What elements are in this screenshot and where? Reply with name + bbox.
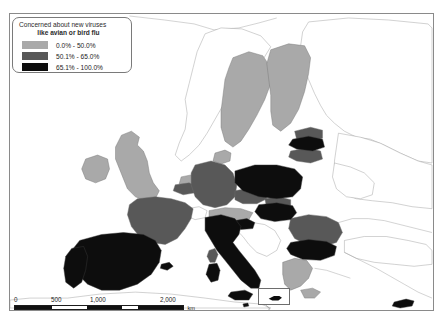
map-figure: .c-light { fill:#a9a9a9; stroke:#777777;…	[0, 0, 443, 324]
scalebar-unit-label: km	[188, 305, 195, 311]
legend-row-class-1: 0.0% - 50.0%	[18, 40, 127, 51]
legend-row-class-2: 50.1% - 65.0%	[18, 51, 127, 62]
scalebar-segment-2	[52, 306, 87, 309]
legend-swatch-class-3	[22, 63, 48, 71]
legend-title-line-1: Concerned about new viruses	[18, 21, 127, 29]
legend-swatch-class-1	[22, 41, 48, 49]
legend-label-class-1: 0.0% - 50.0%	[56, 42, 96, 49]
scalebar-tick-2000: 2,000	[160, 296, 176, 303]
country-hungary	[255, 203, 297, 222]
country-ireland	[82, 155, 110, 183]
map-scalebar: 0 500 1,000 2,000 km	[14, 296, 184, 310]
map-legend: Concerned about new viruses like avian o…	[12, 17, 132, 73]
scalebar-tick-0: 0	[14, 296, 18, 303]
scalebar-segment-3	[87, 306, 122, 309]
scalebar-tick-500: 500	[51, 296, 62, 303]
legend-swatch-class-2	[22, 52, 48, 60]
inset-island-malta	[269, 296, 282, 300]
legend-class-list: 0.0% - 50.0% 50.1% - 65.0% 65.1% - 100.0…	[18, 40, 127, 73]
legend-row-class-3: 65.1% - 100.0%	[18, 62, 127, 73]
scalebar-tick-labels: 0 500 1,000 2,000	[14, 296, 184, 305]
scalebar-tick-1000: 1,000	[90, 296, 106, 303]
scalebar-bar: km	[14, 305, 184, 310]
map-inset-callout	[258, 288, 290, 305]
legend-title-line-2: like avian or bird flu	[18, 29, 127, 37]
scalebar-segment-5	[138, 306, 183, 309]
scalebar-segment-4	[122, 306, 137, 309]
legend-label-class-2: 50.1% - 65.0%	[56, 53, 99, 60]
scalebar-segment-1	[15, 306, 52, 309]
legend-label-class-3: 65.1% - 100.0%	[56, 64, 103, 71]
inset-island-shape	[259, 289, 289, 304]
island-malta	[243, 303, 249, 307]
